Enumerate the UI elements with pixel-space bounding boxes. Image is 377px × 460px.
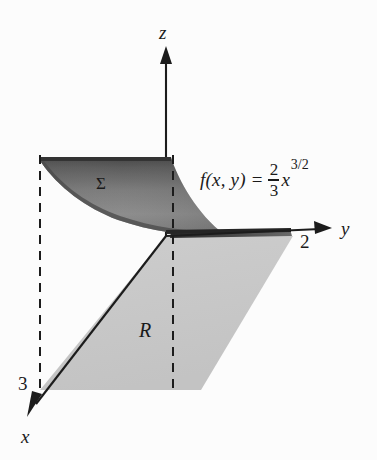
x-axis-tick-label-3: 3 [18, 374, 28, 393]
region-R [40, 236, 293, 390]
equation-fraction: 2 3 [268, 161, 279, 199]
y-axis-label: y [341, 219, 349, 238]
figure-canvas: z y x 2 3 Σ R f(x, y) = 2 3 x 3/2 [0, 0, 377, 460]
y-axis-tick-label-2: 2 [300, 232, 310, 251]
equation-exponent: 3/2 [291, 158, 309, 172]
equation-denominator: 3 [269, 182, 280, 199]
equation-equals-sign: = [252, 170, 263, 189]
surface-equation-label: f(x, y) = 2 3 x 3/2 [200, 160, 309, 198]
equation-lhs: f(x, y) [200, 170, 246, 189]
equation-numerator: 2 [269, 161, 280, 178]
x-axis-label: x [21, 427, 29, 446]
surface-label-sigma: Σ [96, 175, 106, 192]
region-label-R: R [139, 320, 151, 340]
equation-variable: x [281, 170, 289, 189]
diagram-svg [0, 0, 377, 460]
z-axis-label: z [159, 23, 166, 42]
